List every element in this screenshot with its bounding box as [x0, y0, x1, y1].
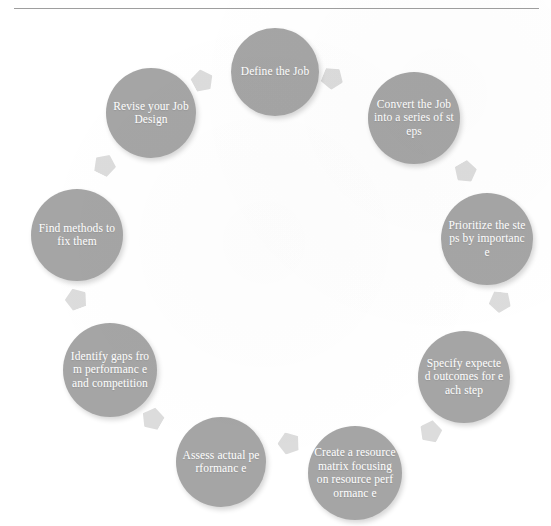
arrow-assess-to-identify-icon	[137, 404, 166, 434]
arrow-identify-to-find-icon	[62, 285, 90, 312]
cycle-node-label: Find methods to fix them	[37, 222, 117, 249]
arrow-specify-to-create-icon	[415, 417, 445, 447]
cycle-node-define-the-job[interactable]: Define the Job	[231, 28, 319, 116]
arrow-prioritize-to-specify-icon	[488, 291, 512, 314]
cycle-node-find-methods-to-fix-them[interactable]: Find methods to fix them	[31, 189, 123, 281]
cycle-node-identify-gaps-from-performance-and-competition[interactable]: Identify gaps from performanc e and comp…	[63, 323, 157, 417]
cycle-node-revise-your-job-design[interactable]: Revise your Job Design	[106, 68, 196, 158]
diagram-page: Define the JobConvert the Job into a ser…	[0, 0, 551, 526]
cycle-node-label: Identify gaps from performanc e and comp…	[69, 350, 151, 391]
cycle-node-specify-expected-outcomes-for-each-step[interactable]: Specify expected outcomes for each step	[418, 331, 510, 423]
arrow-convert-to-prioritize-icon	[451, 158, 481, 187]
cycle-node-label: Create a resource matrix focusing on res…	[314, 446, 396, 500]
arrow-create-to-assess-icon	[277, 432, 299, 455]
cycle-node-label: Prioritize the steps by importance	[447, 219, 527, 260]
cycle-node-label: Define the Job	[241, 65, 309, 79]
arrow-define-to-convert-icon	[319, 64, 347, 92]
arrow-revise-to-define-icon	[189, 66, 218, 95]
cycle-diagram: Define the JobConvert the Job into a ser…	[0, 0, 551, 526]
cycle-node-label: Specify expected outcomes for each step	[424, 357, 504, 398]
cycle-node-create-a-resource-matrix-focusing-on-resource-performance[interactable]: Create a resource matrix focusing on res…	[308, 426, 402, 520]
arrow-find-to-revise-icon	[91, 150, 120, 179]
cycle-node-prioritize-the-steps-by-importance[interactable]: Prioritize the steps by importance	[441, 193, 533, 285]
cycle-node-assess-actual-performance[interactable]: Assess actual performanc e	[176, 417, 266, 507]
cycle-node-label: Assess actual performanc e	[182, 449, 260, 476]
cycle-node-label: Revise your Job Design	[112, 100, 190, 127]
cycle-node-label: Convert the Job into a series of steps	[374, 98, 454, 139]
cycle-node-convert-the-job-into-a-series-of-steps[interactable]: Convert the Job into a series of steps	[368, 72, 460, 164]
